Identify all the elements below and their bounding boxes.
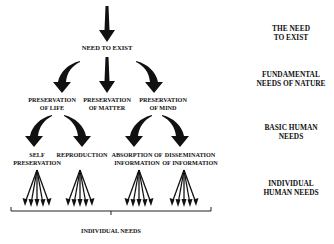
svg-text:TO EXIST: TO EXIST: [274, 33, 309, 42]
root-label: NEED TO EXIST: [82, 44, 133, 51]
individual-needs-bracket: [11, 207, 211, 215]
svg-text:NEEDS OF NATURE: NEEDS OF NATURE: [257, 79, 326, 88]
fan-arrows-reproduction-icon: [66, 170, 95, 207]
fan-arrows-self-preservation-icon: [23, 170, 52, 207]
arrow-to-dissemination-icon: [162, 115, 189, 147]
arrow-to-reproduction-icon: [64, 115, 91, 147]
svg-text:NEEDS: NEEDS: [279, 132, 304, 141]
node-absorption-of-information: ABSORPTION OF INFORMATION: [111, 151, 162, 166]
bracket-label: INDIVIDUAL NEEDS: [81, 227, 142, 234]
arrow-to-mind-icon: [136, 61, 163, 93]
fan-arrows-absorption-icon: [125, 170, 154, 207]
svg-text:PRESERVATION: PRESERVATION: [28, 96, 76, 103]
svg-text:OF MATTER: OF MATTER: [89, 104, 126, 111]
svg-text:OF LIFE: OF LIFE: [40, 104, 64, 111]
arrow-to-matter-icon: [99, 57, 115, 93]
svg-text:PRESERVATION: PRESERVATION: [13, 159, 61, 166]
svg-text:OF INFORMATION: OF INFORMATION: [162, 159, 218, 166]
level-label-individual-human-needs: INDIVIDUAL HUMAN NEEDS: [263, 179, 318, 197]
node-dissemination-of-information: DISSEMINATION OF INFORMATION: [162, 151, 218, 166]
node-preservation-of-mind: PRESERVATION OF MIND: [139, 96, 187, 111]
svg-text:THE NEED: THE NEED: [272, 24, 310, 33]
svg-text:HUMAN NEEDS: HUMAN NEEDS: [263, 188, 318, 197]
node-self-preservation: SELF PRESERVATION: [13, 151, 61, 166]
level-label-need-to-exist: THE NEED TO EXIST: [272, 24, 310, 42]
svg-text:BASIC HUMAN: BASIC HUMAN: [264, 123, 318, 132]
arrow-to-life-icon: [53, 61, 80, 93]
svg-text:OF MIND: OF MIND: [149, 104, 177, 111]
node-reproduction: REPRODUCTION: [57, 151, 108, 158]
node-preservation-of-life: PRESERVATION OF LIFE: [28, 96, 76, 111]
level-label-basic-human-needs: BASIC HUMAN NEEDS: [264, 123, 318, 141]
svg-text:PRESERVATION: PRESERVATION: [139, 96, 187, 103]
svg-text:ABSORPTION OF: ABSORPTION OF: [111, 151, 162, 158]
node-preservation-of-matter: PRESERVATION OF MATTER: [83, 96, 131, 111]
svg-text:INDIVIDUAL: INDIVIDUAL: [268, 179, 314, 188]
fan-arrows-dissemination-icon: [170, 170, 199, 207]
root-arrow-icon: [99, 6, 115, 42]
arrow-to-self-preservation-icon: [25, 115, 52, 147]
arrow-to-absorption-icon: [125, 115, 152, 147]
svg-text:PRESERVATION: PRESERVATION: [83, 96, 131, 103]
svg-text:DISSEMINATION: DISSEMINATION: [165, 151, 216, 158]
needs-hierarchy-diagram: NEED TO EXIST PRESERVATION OF LIFE PRESE…: [0, 0, 334, 244]
svg-text:FUNDAMENTAL: FUNDAMENTAL: [262, 70, 320, 79]
svg-text:SELF: SELF: [29, 151, 45, 158]
svg-text:REPRODUCTION: REPRODUCTION: [57, 151, 108, 158]
level-label-fundamental-needs: FUNDAMENTAL NEEDS OF NATURE: [257, 70, 326, 88]
svg-text:INFORMATION: INFORMATION: [114, 159, 160, 166]
